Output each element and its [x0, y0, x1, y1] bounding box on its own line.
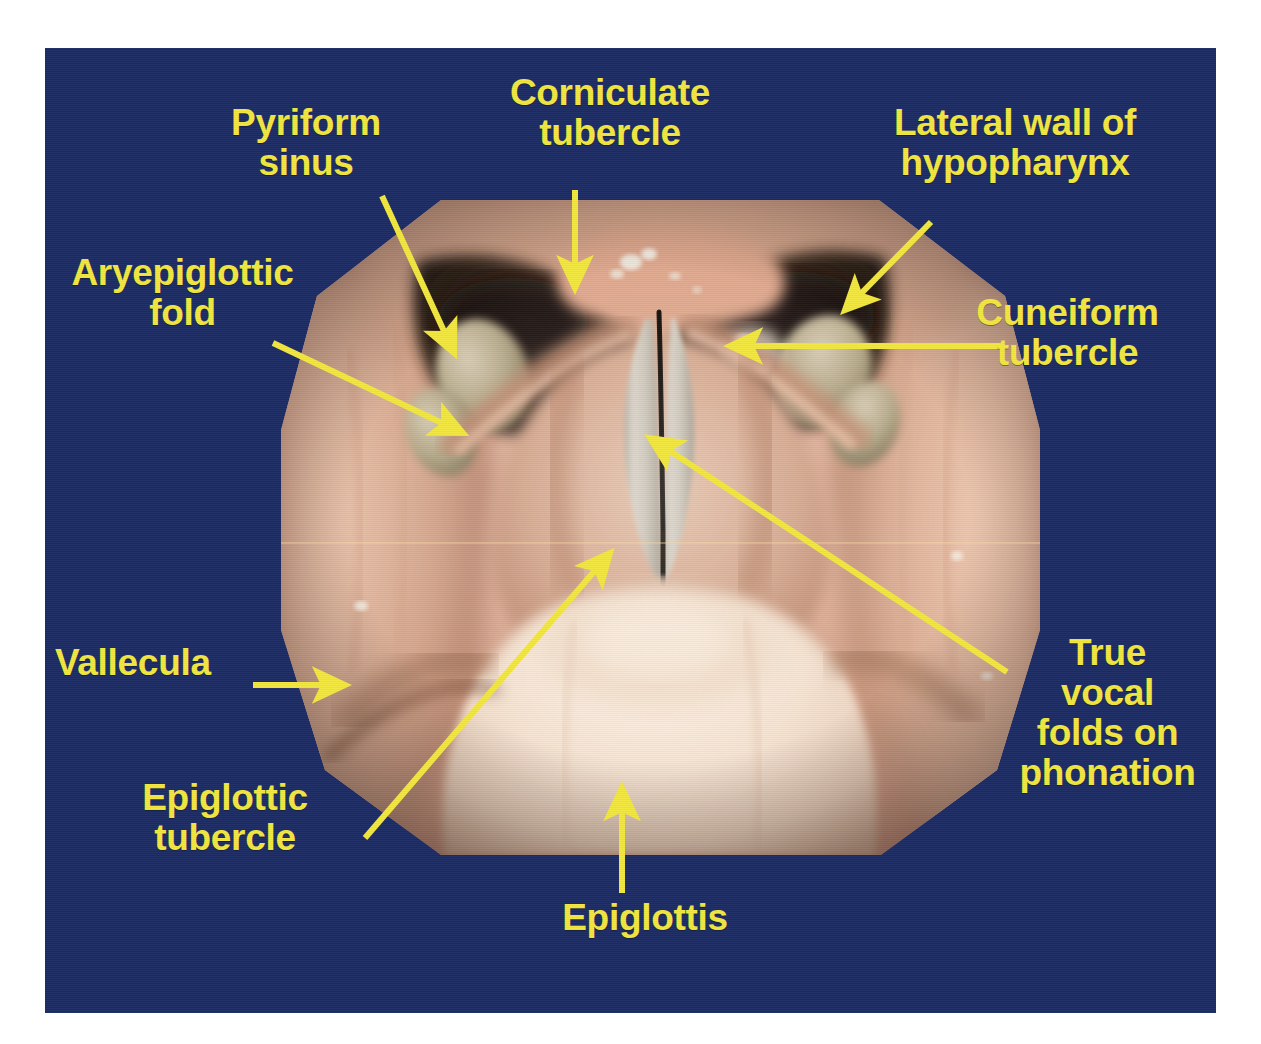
navy-slide-panel: Pyriform sinus Corniculate tubercle Late… — [45, 48, 1216, 1013]
label-corniculate-tubercle: Corniculate tubercle — [445, 73, 775, 153]
label-epiglottic-tubercle: Epiglottic tubercle — [100, 778, 350, 858]
label-vallecula: Vallecula — [55, 643, 255, 683]
slide-page: Pyriform sinus Corniculate tubercle Late… — [0, 0, 1261, 1044]
label-cuneiform-tubercle: Cuneiform tubercle — [945, 293, 1190, 373]
label-lateral-wall-hypopharynx: Lateral wall of hypopharynx — [845, 103, 1185, 183]
label-aryepiglottic-fold: Aryepiglottic fold — [45, 253, 320, 333]
label-true-vocal-folds: True vocal folds on phonation — [1000, 633, 1215, 793]
label-epiglottis: Epiglottis — [510, 898, 780, 938]
label-pyriform-sinus: Pyriform sinus — [181, 103, 431, 183]
